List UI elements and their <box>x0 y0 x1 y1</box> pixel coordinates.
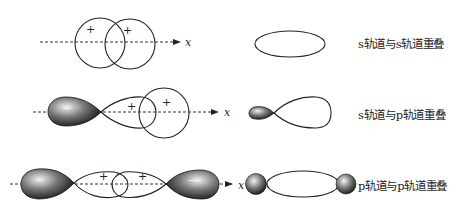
plus-sign: + <box>99 170 108 183</box>
row-s-s-after <box>255 31 325 57</box>
plus-sign: + <box>123 24 132 37</box>
sigma-bond-ellipse <box>267 171 339 197</box>
plus-sign: + <box>138 170 147 183</box>
plus-sign: + <box>162 96 171 109</box>
large-bond-lobe <box>274 97 331 128</box>
small-dark-lobe <box>249 107 274 120</box>
sigma-bond-ellipse <box>255 31 325 57</box>
row-s-p-after <box>249 97 331 128</box>
x-axis-label: x <box>238 179 245 192</box>
label-s-p-overlap: s轨道与p轨道重叠 <box>358 106 446 122</box>
p-orbital-negative-lobe <box>48 97 101 126</box>
plus-sign: + <box>127 100 136 113</box>
row-p-p-before: − + + − x <box>10 169 245 199</box>
s-orbital-left <box>75 18 125 68</box>
x-axis-label: x <box>185 36 192 49</box>
plus-sign: + <box>86 23 95 36</box>
row-p-p-after <box>246 171 357 197</box>
minus-sign: − <box>187 173 197 187</box>
row-s-p-before: − + + x <box>33 88 231 138</box>
minus-sign: − <box>62 101 72 115</box>
p-orbital-left-negative-lobe <box>21 169 74 199</box>
minus-sign: − <box>34 173 44 187</box>
label-p-p-overlap: p轨道与p轨道重叠 <box>358 177 447 193</box>
small-sphere-right <box>336 174 356 194</box>
row-s-s-before: + + x <box>40 18 192 69</box>
label-s-s-overlap: s轨道与s轨道重叠 <box>358 35 444 51</box>
x-axis-label: x <box>224 106 231 119</box>
small-sphere-left <box>246 174 267 195</box>
